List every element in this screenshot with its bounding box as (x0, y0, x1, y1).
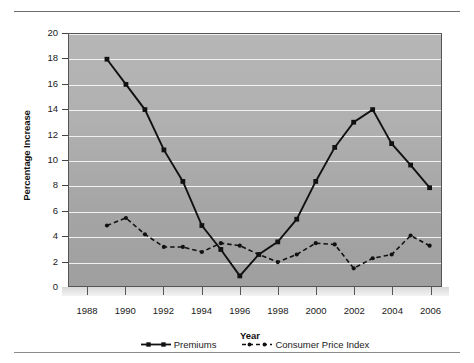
top-divider-rule (14, 11, 460, 12)
data-point-marker (370, 107, 375, 112)
y-axis-tick-label: 2 (18, 256, 58, 267)
y-axis-tick-label: 4 (18, 230, 58, 241)
y-axis-tick-label: 14 (18, 103, 58, 114)
y-axis-tick-label: 0 (18, 281, 58, 292)
data-point-marker (408, 163, 413, 168)
data-point-marker (143, 107, 148, 112)
legend-label: Consumer Price Index (275, 339, 369, 350)
data-point-marker (390, 252, 394, 256)
x-axis-tick-mark (87, 287, 88, 295)
x-axis-tick-label: 1992 (153, 305, 174, 316)
x-axis-tick-mark (431, 287, 432, 295)
data-point-marker (162, 245, 166, 249)
y-axis-tick-label: 12 (18, 129, 58, 140)
data-point-marker (181, 245, 185, 249)
x-axis-tick-label: 1990 (115, 305, 136, 316)
chart-figure: Percentage Increase Year 024681012141618… (0, 0, 474, 363)
legend-label: Premiums (174, 339, 217, 350)
legend-item-1[interactable]: Premiums (141, 339, 217, 350)
data-point-marker (200, 250, 204, 254)
x-axis-tick-label: 1998 (267, 305, 288, 316)
data-point-marker (389, 141, 394, 146)
data-point-marker (295, 252, 299, 256)
data-point-marker (218, 247, 223, 252)
data-point-marker (162, 148, 167, 153)
data-point-marker (409, 234, 413, 238)
x-axis-tick-label: 2002 (344, 305, 365, 316)
data-point-marker (143, 232, 147, 236)
data-point-marker (352, 266, 356, 270)
x-axis-tick-mark (240, 287, 241, 295)
y-axis-tick-label: 20 (18, 27, 58, 38)
x-axis-tick-mark (392, 287, 393, 295)
x-axis-tick-mark (278, 287, 279, 295)
y-axis-tick-label: 16 (18, 78, 58, 89)
y-axis-tick-label: 8 (18, 179, 58, 190)
data-point-marker (124, 216, 128, 220)
chart-legend: PremiumsConsumer Price Index (68, 336, 442, 352)
data-point-marker (427, 185, 432, 190)
y-axis-tick-label: 6 (18, 205, 58, 216)
data-point-marker (428, 244, 432, 248)
legend-swatch-icon (141, 340, 171, 349)
data-point-marker (276, 260, 280, 264)
data-point-marker (105, 223, 109, 227)
x-axis-tick-mark (316, 287, 317, 295)
x-axis-tick-mark (354, 287, 355, 295)
y-axis-tick-label: 18 (18, 52, 58, 63)
data-point-marker (124, 82, 129, 87)
data-point-marker (313, 179, 318, 184)
x-axis-tick-label: 1994 (191, 305, 212, 316)
data-point-marker (314, 241, 318, 245)
x-axis-tick-mark (125, 287, 126, 295)
x-axis-tick-label: 2006 (420, 305, 441, 316)
x-axis-tick-label: 1988 (77, 305, 98, 316)
data-point-marker (333, 242, 337, 246)
data-point-marker (105, 57, 110, 62)
legend-item-2[interactable]: Consumer Price Index (242, 339, 369, 350)
y-axis: 02468101214161820 (20, 33, 68, 287)
y-axis-tick-label: 10 (18, 154, 58, 165)
plot-base-shadow (62, 287, 449, 296)
data-point-marker (275, 240, 280, 245)
data-point-marker (351, 120, 356, 125)
data-point-marker (371, 256, 375, 260)
data-point-marker (294, 217, 299, 222)
x-axis-tick-label: 2004 (382, 305, 403, 316)
x-axis: 1988199019921994199619982000200220042006 (68, 296, 442, 322)
data-point-marker (257, 252, 261, 256)
x-axis-tick-mark (163, 287, 164, 295)
data-point-marker (237, 274, 242, 279)
legend-swatch-icon (242, 340, 272, 349)
data-point-marker (219, 241, 223, 245)
x-axis-tick-mark (202, 287, 203, 295)
series-canvas (69, 34, 441, 286)
data-point-marker (332, 145, 337, 150)
data-point-marker (238, 244, 242, 248)
bottom-divider-rule (14, 352, 460, 353)
x-axis-tick-label: 1996 (229, 305, 250, 316)
data-point-marker (180, 179, 185, 184)
series-line-2 (107, 218, 430, 268)
plot-area (68, 33, 442, 287)
series-line-1 (107, 59, 430, 276)
x-axis-tick-label: 2000 (305, 305, 326, 316)
data-point-marker (199, 223, 204, 228)
